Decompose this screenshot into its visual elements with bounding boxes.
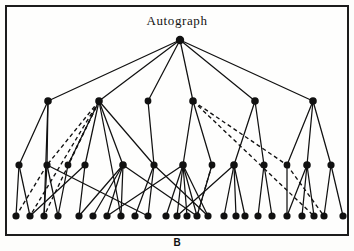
graph-node (183, 212, 190, 219)
graph-node (119, 161, 127, 169)
graph-node (189, 97, 197, 105)
graph-node (81, 161, 88, 168)
graph-edge-solid (16, 165, 19, 216)
graph-node (26, 212, 33, 219)
graph-node (309, 97, 317, 105)
figure-caption-label: B (0, 238, 354, 248)
graph-node (298, 212, 305, 219)
graph-edge-solid (307, 165, 314, 216)
graph-edge-solid (19, 101, 48, 165)
graph-node (131, 212, 138, 219)
graph-canvas (5, 5, 349, 236)
graph-edge-solid (30, 165, 85, 216)
graph-node (15, 161, 22, 168)
graph-node (12, 212, 19, 219)
graph-node (65, 162, 72, 169)
graph-node (268, 212, 275, 219)
graph-edge-solid (264, 165, 272, 216)
graph-node (241, 212, 248, 219)
graph-node (339, 212, 346, 219)
graph-node (103, 212, 110, 219)
graph-edge-solid (313, 101, 331, 165)
solid-edge-group (16, 40, 343, 216)
graph-node (144, 212, 151, 219)
graph-edge-solid (107, 165, 123, 216)
graph-node (283, 212, 290, 219)
graph-edge-solid (324, 165, 331, 216)
graph-node (176, 36, 184, 44)
graph-node (44, 97, 52, 105)
graph-edge-solid (234, 101, 255, 165)
graph-edge-solid (99, 40, 180, 101)
graph-edge-solid (148, 101, 154, 165)
graph-node (95, 97, 103, 105)
graph-node (40, 212, 47, 219)
graph-node (204, 212, 211, 219)
graph-edge-solid (99, 101, 123, 165)
graph-edge-solid (331, 165, 343, 216)
graph-frame (5, 5, 349, 236)
graph-node (145, 98, 152, 105)
graph-edge-solid (121, 165, 123, 216)
graph-edge-solid (99, 101, 154, 165)
graph-node (220, 212, 227, 219)
graph-edge-dashed (193, 101, 287, 165)
graph-edge-solid (307, 101, 313, 165)
graph-edge-solid (79, 165, 85, 216)
graph-edge-solid (287, 101, 313, 165)
graph-node (193, 212, 200, 219)
graph-edge-solid (180, 40, 313, 101)
graph-node (43, 161, 50, 168)
graph-node (260, 161, 267, 168)
graph-node (251, 97, 259, 105)
graph-node (310, 212, 317, 219)
graph-edge-solid (258, 165, 264, 216)
graph-node (284, 162, 291, 169)
graph-node (173, 212, 180, 219)
graph-edge-dashed (193, 101, 314, 216)
graph-edge-solid (99, 101, 121, 216)
graph-node (209, 162, 216, 169)
graph-node (230, 161, 238, 169)
graph-node (320, 212, 327, 219)
figure-root: Autograph B (0, 0, 354, 251)
graph-node (162, 212, 169, 219)
graph-node (179, 161, 187, 169)
graph-edge-solid (193, 101, 212, 165)
graph-node (117, 212, 124, 219)
graph-node (327, 161, 334, 168)
graph-edge-solid (85, 101, 99, 165)
graph-edge-solid (48, 40, 180, 101)
graph-edge-solid (255, 101, 264, 165)
graph-node (75, 212, 82, 219)
graph-edge-solid (148, 40, 180, 101)
graph-node (254, 212, 261, 219)
graph-node (232, 212, 239, 219)
graph-node (54, 212, 61, 219)
graph-node (303, 161, 311, 169)
graph-node (89, 212, 96, 219)
graph-edge-solid (183, 101, 193, 165)
dashed-edge-group (16, 101, 324, 216)
graph-node (150, 161, 157, 168)
